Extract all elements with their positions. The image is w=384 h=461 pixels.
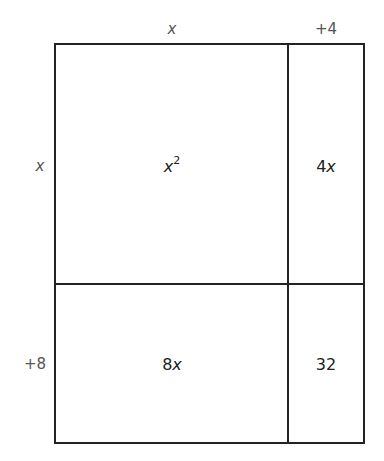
cell-8x-var: x	[172, 355, 181, 374]
cell-x-squared-exp: 2	[173, 154, 180, 167]
rect-left-edge	[54, 43, 56, 444]
cell-4x-var: x	[326, 157, 335, 176]
rect-top-edge	[54, 43, 365, 45]
vertical-divider	[287, 43, 289, 444]
cell-4x-coef: 4	[316, 157, 326, 176]
horizontal-divider	[54, 283, 365, 285]
cell-32: 32	[316, 355, 336, 374]
cell-8x: 8x	[162, 355, 182, 374]
side-label-x: x	[36, 157, 45, 175]
top-label-plus4: +4	[315, 20, 337, 38]
rect-right-edge	[363, 43, 365, 444]
cell-x-squared: x2	[164, 156, 180, 176]
top-label-x: x	[168, 20, 177, 38]
cell-8x-coef: 8	[162, 355, 172, 374]
cell-4x: 4x	[316, 157, 336, 176]
side-label-plus8: +8	[24, 355, 46, 373]
rect-bottom-edge	[54, 442, 365, 444]
